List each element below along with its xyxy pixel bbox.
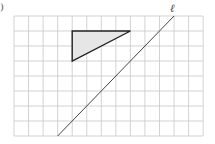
grid-diagram: ) ℓ — [0, 0, 215, 144]
line-l-label: ℓ — [170, 2, 175, 15]
part-label: ) — [0, 1, 4, 12]
